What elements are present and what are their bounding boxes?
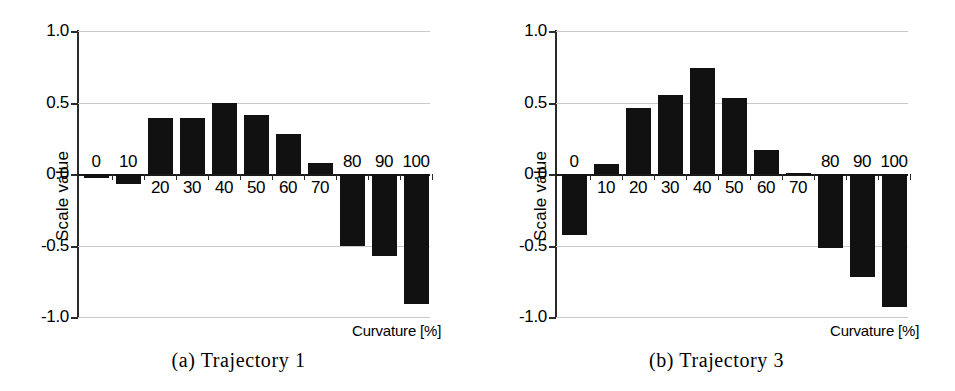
bar-70 [786, 173, 811, 175]
bar-80 [340, 174, 365, 246]
y-tick-label: -0.5 [519, 235, 547, 255]
x-tick-mark [208, 174, 209, 180]
y-tick-label: -0.5 [41, 235, 69, 255]
y-tick-mark [549, 317, 556, 319]
bar-90 [850, 174, 875, 277]
x-tick-mark [432, 174, 433, 180]
x-tick-mark [590, 174, 591, 180]
x-tick-label-100: 100 [880, 152, 907, 172]
x-tick-mark [144, 174, 145, 180]
x-tick-label-100: 100 [402, 152, 429, 172]
x-tick-mark [910, 174, 911, 180]
x-tick-label-20: 20 [151, 178, 169, 198]
x-tick-mark [176, 174, 177, 180]
chart-panel-trajectory-3: Scale value 1.00.50.0-0.5-1.0 0102030405… [478, 0, 955, 391]
bar-0 [562, 174, 587, 235]
bar-10 [116, 174, 141, 184]
bar-80 [818, 174, 843, 248]
bar-100 [882, 174, 907, 307]
bar-40 [690, 68, 715, 174]
bar-30 [658, 95, 683, 174]
x-tick-mark [750, 174, 751, 180]
x-tick-mark [814, 174, 815, 180]
bar-40 [212, 103, 237, 175]
x-tick-mark [112, 174, 113, 180]
x-tick-label-50: 50 [247, 178, 265, 198]
x-tick-mark [240, 174, 241, 180]
x-tick-label-40: 40 [215, 178, 233, 198]
plot-area: 1.00.50.0-0.5-1.0 0102030405060708090100 [78, 31, 430, 317]
figure-two-bar-charts: Scale value 1.00.50.0-0.5-1.0 0102030405… [0, 0, 955, 391]
y-tick-label: 0.5 [46, 92, 69, 112]
bar-60 [276, 134, 301, 174]
plot-area: 1.00.50.0-0.5-1.0 0102030405060708090100 [556, 31, 908, 317]
x-tick-label-70: 70 [311, 178, 329, 198]
y-tick-label: 0.5 [524, 92, 547, 112]
x-tick-label-0: 0 [569, 152, 578, 172]
bar-60 [754, 150, 779, 174]
x-tick-mark [686, 174, 687, 180]
panel-caption: (b) Trajectory 3 [478, 349, 955, 372]
x-tick-label-30: 30 [183, 178, 201, 198]
bar-20 [148, 118, 173, 174]
x-tick-label-60: 60 [757, 178, 775, 198]
x-tick-label-10: 10 [597, 178, 615, 198]
bar-0 [84, 174, 109, 178]
y-tick-mark [549, 103, 556, 105]
y-tick-mark [549, 174, 556, 176]
bar-series: 0102030405060708090100 [78, 31, 430, 317]
x-tick-mark [304, 174, 305, 180]
y-tick-label: 1.0 [524, 21, 547, 41]
x-tick-mark [846, 174, 847, 180]
y-tick-mark [549, 31, 556, 33]
x-tick-label-80: 80 [343, 152, 361, 172]
x-tick-label-40: 40 [693, 178, 711, 198]
x-tick-label-20: 20 [629, 178, 647, 198]
x-tick-mark [782, 174, 783, 180]
y-tick-label: -1.0 [41, 307, 69, 327]
y-tick-label: -1.0 [519, 307, 547, 327]
bar-10 [594, 164, 619, 174]
x-tick-mark [622, 174, 623, 180]
x-tick-label-70: 70 [789, 178, 807, 198]
bar-30 [180, 118, 205, 174]
y-tick-mark [71, 103, 78, 105]
x-tick-label-10: 10 [119, 152, 137, 172]
x-axis-label: Curvature [%] [352, 322, 441, 339]
x-tick-mark [718, 174, 719, 180]
y-tick-label: 0.0 [46, 164, 69, 184]
bar-70 [308, 163, 333, 174]
x-tick-mark [368, 174, 369, 180]
bar-20 [626, 108, 651, 174]
x-tick-mark [272, 174, 273, 180]
x-tick-label-50: 50 [725, 178, 743, 198]
gridline--1.0 [556, 317, 908, 318]
x-tick-mark [336, 174, 337, 180]
bar-50 [244, 115, 269, 174]
x-tick-label-30: 30 [661, 178, 679, 198]
bar-50 [722, 98, 747, 174]
x-axis-label: Curvature [%] [830, 322, 919, 339]
gridline--1.0 [78, 317, 430, 318]
x-tick-label-80: 80 [821, 152, 839, 172]
y-tick-mark [71, 246, 78, 248]
chart-panel-trajectory-1: Scale value 1.00.50.0-0.5-1.0 0102030405… [0, 0, 477, 391]
bar-90 [372, 174, 397, 256]
x-tick-mark [654, 174, 655, 180]
x-tick-mark [400, 174, 401, 180]
y-tick-mark [71, 174, 78, 176]
x-tick-label-90: 90 [853, 152, 871, 172]
y-tick-label: 1.0 [46, 21, 69, 41]
bar-100 [404, 174, 429, 304]
x-tick-label-90: 90 [375, 152, 393, 172]
bar-series: 0102030405060708090100 [556, 31, 908, 317]
x-tick-label-60: 60 [279, 178, 297, 198]
y-tick-mark [549, 246, 556, 248]
y-tick-label: 0.0 [524, 164, 547, 184]
x-tick-label-0: 0 [91, 152, 100, 172]
x-tick-mark [878, 174, 879, 180]
y-tick-mark [71, 31, 78, 33]
y-tick-mark [71, 317, 78, 319]
panel-caption: (a) Trajectory 1 [0, 349, 477, 372]
